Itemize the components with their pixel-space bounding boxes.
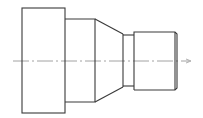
- shaft-drawing-svg: [0, 0, 203, 118]
- taper-bottom-edge: [95, 87, 123, 102]
- taper-top-edge: [95, 19, 123, 34]
- large-collar-section: [22, 8, 65, 113]
- shoulder-section: [65, 19, 95, 102]
- shaft-drawing: [0, 0, 203, 118]
